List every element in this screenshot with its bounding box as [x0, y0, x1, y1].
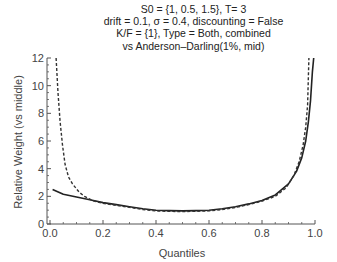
x-tick-label: 0.8	[254, 227, 269, 239]
series-line-anderson-darling	[56, 58, 309, 212]
y-tick-label: 2	[38, 190, 44, 202]
plot-area: 0246810120.00.20.40.60.81.0 Quantiles Re…	[0, 0, 337, 262]
series-group	[53, 58, 314, 212]
x-axis-label: Quantiles	[159, 247, 206, 259]
y-axis-label: Relative Weight (vs middle)	[12, 75, 24, 209]
x-tick-label: 0.4	[148, 227, 163, 239]
y-tick-label: 6	[38, 135, 44, 147]
y-tick-label: 8	[38, 107, 44, 119]
y-tick-label: 12	[32, 52, 44, 64]
x-tick-label: 0.0	[42, 227, 57, 239]
x-tick-label: 0.6	[201, 227, 216, 239]
series-line-combined	[53, 58, 314, 211]
y-tick-label: 4	[38, 163, 44, 175]
y-tick-label: 10	[32, 80, 44, 92]
x-tick-label: 0.2	[95, 227, 110, 239]
x-tick-label: 1.0	[307, 227, 322, 239]
